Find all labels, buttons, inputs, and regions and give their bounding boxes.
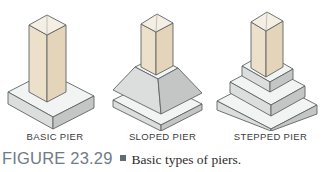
caption-text: Basic types of piers. xyxy=(132,152,241,168)
pier-label-basic: BASIC PIER xyxy=(0,131,110,142)
column-left-face xyxy=(141,24,156,75)
pier-illustration-sloped xyxy=(105,0,220,131)
figure-number: FIGURE 23.29 xyxy=(2,149,113,168)
pier-label-sloped: SLOPED PIER xyxy=(105,131,220,142)
column-left-face xyxy=(29,25,47,102)
column-right-face xyxy=(47,25,66,102)
figure-container: BASIC PIER SLOPED PIER STEPPED PIER FIGU… xyxy=(0,0,328,172)
stepped-pier-drawing xyxy=(213,0,328,131)
pier-illustration-basic xyxy=(0,0,110,131)
sloped-pier-drawing xyxy=(105,0,220,131)
pier-labels-row: BASIC PIER SLOPED PIER STEPPED PIER xyxy=(0,131,328,147)
pier-illustrations-row xyxy=(0,0,328,131)
pier-illustration-stepped xyxy=(213,0,328,131)
square-bullet-icon xyxy=(120,155,126,161)
pier-label-stepped: STEPPED PIER xyxy=(213,131,328,142)
basic-pier-drawing xyxy=(0,0,110,131)
column-left-face xyxy=(251,22,266,77)
figure-caption: FIGURE 23.29 Basic types of piers. xyxy=(2,149,326,171)
